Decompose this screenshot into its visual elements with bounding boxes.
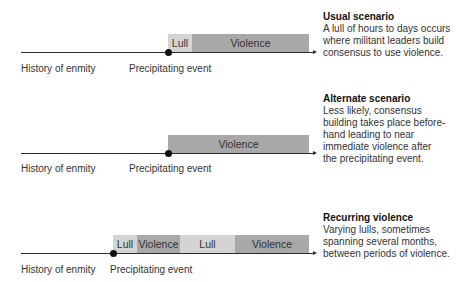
history-of-enmity-label: History of enmity — [21, 264, 95, 275]
description-line: spanning several months, — [323, 236, 459, 248]
arrow-head-icon — [313, 251, 317, 255]
violence-segment: Violence — [235, 235, 309, 253]
recurring-violence-description: Recurring violence Varying lulls, someti… — [323, 212, 459, 260]
timeline-axis — [21, 253, 314, 254]
lull-segment: Lull — [180, 235, 235, 253]
precipitating-event-dot — [110, 250, 117, 257]
violence-segment: Violence — [137, 235, 180, 253]
description-line: Varying lulls, sometimes — [323, 224, 459, 236]
scenario-title: Recurring violence — [323, 212, 459, 224]
lull-segment: Lull — [113, 235, 137, 253]
precipitating-event-label: Precipitating event — [110, 264, 192, 275]
description-line: between periods of violence. — [323, 248, 459, 260]
